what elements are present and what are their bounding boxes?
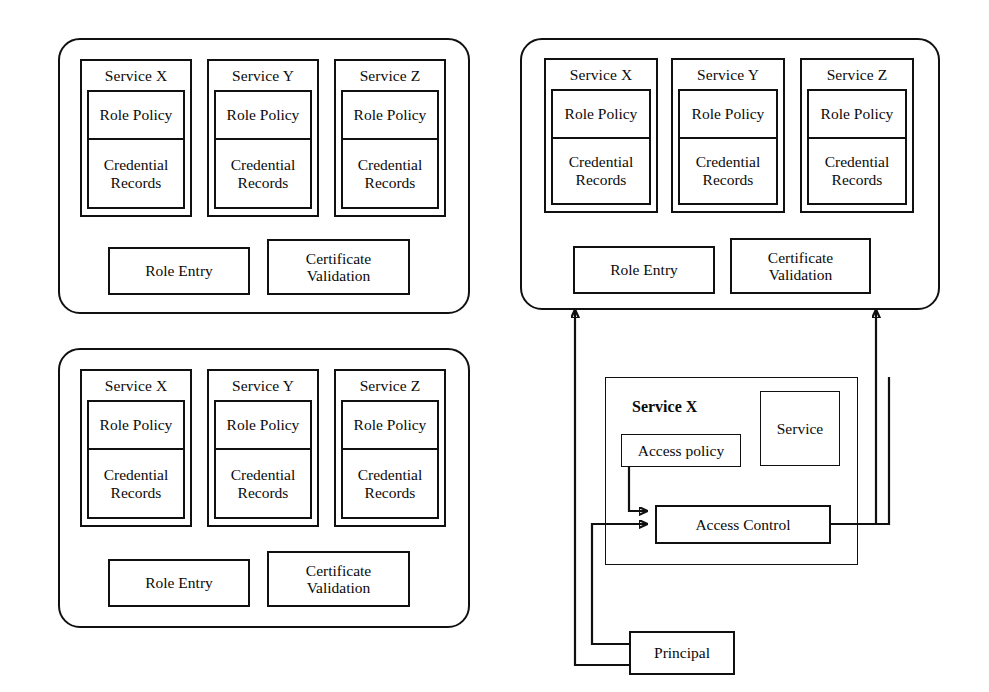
certificate-validation-box: CertificateValidation	[730, 238, 871, 294]
service-column-title: Service Z	[336, 371, 444, 400]
credential-line-2: Records	[365, 484, 416, 501]
credential-records-cell: CredentialRecords	[553, 139, 649, 203]
principal-label: Principal	[654, 644, 710, 661]
certificate-validation-box: CertificateValidation	[267, 551, 410, 607]
service-box: Service	[760, 391, 840, 466]
role-policy-cell: Role Policy	[216, 402, 310, 450]
service-column-z: Service Z Role Policy CredentialRecords	[334, 59, 446, 217]
credential-line-1: Credential	[825, 153, 890, 170]
role-entry-label: Role Entry	[145, 262, 213, 279]
credential-records-cell: CredentialRecords	[89, 450, 183, 517]
panel-top-left: Service X Role Policy CredentialRecords …	[58, 38, 470, 314]
credential-records-cell: CredentialRecords	[89, 140, 183, 207]
service-column-title: Service X	[82, 371, 190, 400]
credential-line-1: Credential	[358, 156, 423, 173]
service-column-title: Service X	[546, 60, 656, 89]
credential-records-cell: CredentialRecords	[343, 450, 437, 517]
credential-line-2: Records	[576, 171, 627, 188]
certificate-validation-box: CertificateValidation	[267, 239, 410, 295]
service-inner-box: Role Policy CredentialRecords	[341, 400, 439, 519]
credential-records-cell: CredentialRecords	[809, 139, 905, 203]
service-column-x: Service X Role Policy CredentialRecords	[80, 59, 192, 217]
role-policy-cell: Role Policy	[343, 92, 437, 140]
diagram-canvas: Service X Role Policy CredentialRecords …	[0, 0, 989, 692]
panel-top-right: Service X Role Policy CredentialRecords …	[520, 38, 940, 310]
service-inner-box: Role Policy CredentialRecords	[87, 90, 185, 209]
service-inner-box: Role Policy CredentialRecords	[551, 89, 651, 205]
credential-line-2: Records	[111, 484, 162, 501]
service-column-title: Service Z	[336, 61, 444, 90]
service-column-title: Service Y	[209, 61, 317, 90]
service-column-title: Service Y	[673, 60, 783, 89]
role-policy-cell: Role Policy	[216, 92, 310, 140]
credential-line-1: Credential	[104, 466, 169, 483]
credential-line-1: Credential	[231, 466, 296, 483]
credential-records-cell: CredentialRecords	[680, 139, 776, 203]
role-entry-label: Role Entry	[145, 574, 213, 591]
credential-line-2: Records	[703, 171, 754, 188]
credential-line-2: Records	[238, 484, 289, 501]
service-column-title: Service X	[82, 61, 190, 90]
role-policy-cell: Role Policy	[553, 91, 649, 139]
credential-records-cell: CredentialRecords	[343, 140, 437, 207]
service-label: Service	[777, 420, 823, 437]
role-entry-box: Role Entry	[573, 246, 715, 294]
credential-line-1: Credential	[231, 156, 296, 173]
access-control-label: Access Control	[695, 516, 790, 533]
certificate-line-1: Certificate	[306, 250, 371, 267]
role-entry-label: Role Entry	[610, 261, 678, 278]
service-inner-box: Role Policy CredentialRecords	[214, 400, 312, 519]
role-entry-box: Role Entry	[108, 247, 250, 295]
credential-line-1: Credential	[358, 466, 423, 483]
credential-records-cell: CredentialRecords	[216, 450, 310, 517]
credential-line-1: Credential	[569, 153, 634, 170]
service-column-x: Service X Role Policy CredentialRecords	[80, 369, 192, 527]
credential-line-2: Records	[832, 171, 883, 188]
service-column-x: Service X Role Policy CredentialRecords	[544, 58, 658, 213]
service-inner-box: Role Policy CredentialRecords	[807, 89, 907, 205]
credential-line-2: Records	[111, 174, 162, 191]
credential-records-cell: CredentialRecords	[216, 140, 310, 207]
service-inner-box: Role Policy CredentialRecords	[87, 400, 185, 519]
role-policy-cell: Role Policy	[809, 91, 905, 139]
access-policy-box: Access policy	[621, 434, 741, 467]
credential-line-1: Credential	[104, 156, 169, 173]
certificate-line-2: Validation	[307, 267, 371, 284]
credential-line-1: Credential	[696, 153, 761, 170]
principal-box: Principal	[629, 631, 735, 675]
role-policy-cell: Role Policy	[89, 402, 183, 450]
certificate-line-2: Validation	[307, 579, 371, 596]
credential-line-2: Records	[238, 174, 289, 191]
service-inner-box: Role Policy CredentialRecords	[214, 90, 312, 209]
service-column-z: Service Z Role Policy CredentialRecords	[800, 58, 914, 213]
service-column-title: Service Z	[802, 60, 912, 89]
service-column-title: Service Y	[209, 371, 317, 400]
certificate-line-1: Certificate	[768, 249, 833, 266]
role-policy-cell: Role Policy	[680, 91, 776, 139]
service-inner-box: Role Policy CredentialRecords	[341, 90, 439, 209]
role-entry-box: Role Entry	[108, 559, 250, 607]
role-policy-cell: Role Policy	[343, 402, 437, 450]
access-control-box: Access Control	[655, 505, 831, 544]
service-column-z: Service Z Role Policy CredentialRecords	[334, 369, 446, 527]
credential-line-2: Records	[365, 174, 416, 191]
service-inner-box: Role Policy CredentialRecords	[678, 89, 778, 205]
role-policy-cell: Role Policy	[89, 92, 183, 140]
wire-detail-return-loop	[858, 377, 889, 524]
service-x-detail-title: Service X	[632, 398, 752, 420]
access-policy-label: Access policy	[638, 442, 725, 459]
certificate-line-2: Validation	[769, 266, 833, 283]
service-column-y: Service Y Role Policy CredentialRecords	[671, 58, 785, 213]
certificate-line-1: Certificate	[306, 562, 371, 579]
service-column-y: Service Y Role Policy CredentialRecords	[207, 369, 319, 527]
panel-bottom-left: Service X Role Policy CredentialRecords …	[58, 348, 470, 628]
service-column-y: Service Y Role Policy CredentialRecords	[207, 59, 319, 217]
